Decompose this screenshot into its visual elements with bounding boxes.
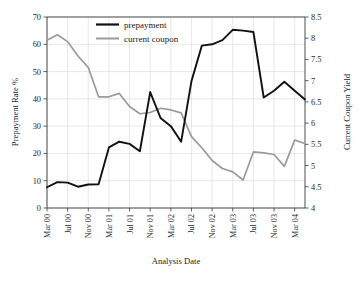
tick-label-y2: 4 <box>311 204 316 213</box>
tick-label-x: Jul 00 <box>64 214 73 234</box>
tick-label-y: 60 <box>33 40 41 49</box>
tick-label-y2: 7 <box>311 77 315 86</box>
tick-label-x: Nov 02 <box>208 214 217 238</box>
y-axis-title: Prepayment Rate % <box>10 78 20 146</box>
tick-label-x: Mar 04 <box>291 214 300 238</box>
right-axis-ticks: 44.555.566.577.588.5 <box>305 13 321 213</box>
y2-axis-title: Current Coupon Yield <box>342 73 352 150</box>
tick-label-x: Jul 03 <box>249 214 258 234</box>
tick-label-x: Mar 02 <box>167 214 176 238</box>
tick-label-y2: 5 <box>311 162 315 171</box>
tick-label-x: Jul 02 <box>187 214 196 234</box>
tick-label-y2: 8.5 <box>311 13 321 22</box>
tick-label-x: Nov 01 <box>146 214 155 238</box>
series-line-prepayment <box>47 30 305 187</box>
tick-label-y: 70 <box>33 13 41 22</box>
legend-label-current-coupon: current coupon <box>124 34 179 44</box>
tick-label-y2: 5.5 <box>311 140 321 149</box>
tick-label-x: Mar 01 <box>105 214 114 238</box>
tick-label-y2: 7.5 <box>311 55 321 64</box>
tick-label-x: Nov 03 <box>270 214 279 238</box>
tick-label-x: Mar 03 <box>229 214 238 238</box>
tick-label-x: Nov 00 <box>84 214 93 238</box>
tick-label-y: 0 <box>37 204 41 213</box>
tick-label-y: 30 <box>33 122 41 131</box>
data-series-group <box>47 30 305 187</box>
tick-label-y: 20 <box>33 149 41 158</box>
plot-frame <box>47 17 305 208</box>
tick-label-x: Mar 00 <box>43 214 52 238</box>
x-axis-ticks: Mar 00Jul 00Nov 00Mar 01Jul 01Nov 01Mar … <box>43 208 300 238</box>
chart-canvas: 010203040506070 44.555.566.577.588.5 Mar… <box>0 0 364 281</box>
legend: prepayment current coupon <box>96 20 179 44</box>
tick-label-y: 50 <box>33 68 41 77</box>
x-axis-title: Analysis Date <box>152 256 201 266</box>
tick-label-y2: 4.5 <box>311 183 321 192</box>
tick-label-y2: 8 <box>311 34 315 43</box>
left-axis-ticks: 010203040506070 <box>33 13 47 213</box>
series-line-current-coupon <box>47 35 305 180</box>
tick-label-y: 10 <box>33 177 41 186</box>
tick-label-y: 40 <box>33 95 41 104</box>
prepayment-vs-current-coupon-chart: 010203040506070 44.555.566.577.588.5 Mar… <box>0 0 364 281</box>
tick-label-x: Jul 01 <box>126 214 135 234</box>
tick-label-y2: 6.5 <box>311 98 321 107</box>
legend-label-prepayment: prepayment <box>124 20 167 30</box>
tick-label-y2: 6 <box>311 119 315 128</box>
plot-gridlines <box>47 17 305 208</box>
